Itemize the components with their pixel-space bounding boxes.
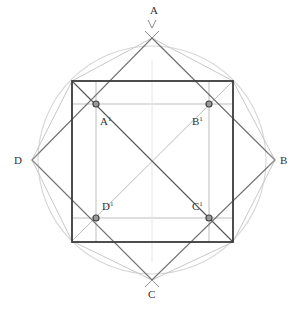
point-c1 xyxy=(206,215,212,221)
construction-lines xyxy=(32,38,275,280)
label-b1: B1 xyxy=(192,115,203,127)
label-d1: D1 xyxy=(102,200,114,212)
label-c: C xyxy=(148,288,155,300)
point-a1 xyxy=(93,101,99,107)
apex-marks xyxy=(32,20,275,287)
geometric-diagram: A B C D A1 B1 D1 C1 xyxy=(0,0,304,311)
label-a1: A1 xyxy=(100,115,112,127)
label-b: B xyxy=(280,154,287,166)
diamond-abcd xyxy=(32,38,275,280)
point-d1 xyxy=(93,215,99,221)
label-d: D xyxy=(14,154,22,166)
point-b1 xyxy=(206,101,212,107)
label-a: A xyxy=(150,4,158,16)
